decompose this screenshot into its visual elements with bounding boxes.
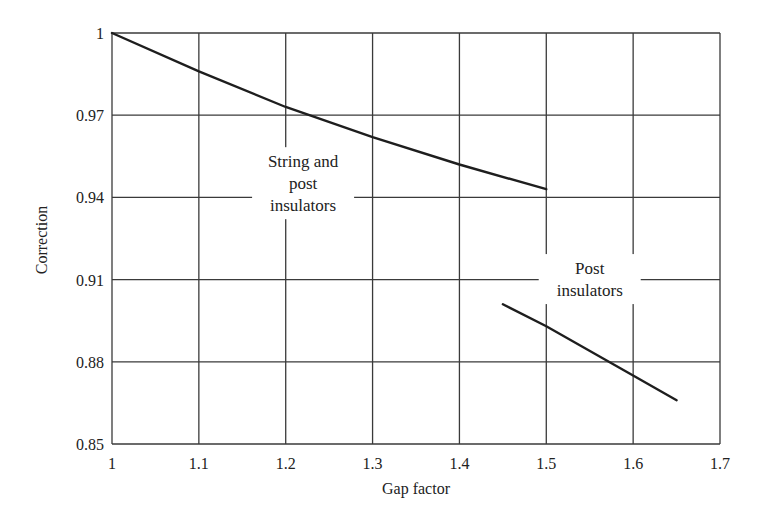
x-axis-tick-labels: 11.11.21.31.41.51.61.7: [108, 455, 730, 472]
x-tick-label: 1.5: [536, 455, 556, 472]
x-tick-label: 1.1: [189, 455, 209, 472]
y-axis-tick-labels: 0.850.880.910.940.971: [76, 25, 104, 453]
y-tick-label: 0.94: [76, 189, 104, 206]
annotation-label: insulators: [270, 196, 336, 215]
data-series: [112, 33, 677, 400]
y-tick-label: 0.91: [76, 272, 104, 289]
x-tick-label: 1: [108, 455, 116, 472]
x-tick-label: 1.2: [276, 455, 296, 472]
annotation-label: insulators: [557, 281, 623, 300]
x-tick-label: 1.7: [710, 455, 730, 472]
annotation-label: String and: [268, 152, 339, 171]
series-line: [503, 304, 677, 400]
grid: [112, 33, 720, 444]
annotation-label: post: [289, 174, 318, 193]
y-tick-label: 1: [96, 25, 104, 42]
annotation-label: Post: [575, 259, 605, 278]
x-tick-label: 1.6: [623, 455, 643, 472]
y-tick-label: 0.88: [76, 354, 104, 371]
x-tick-label: 1.3: [363, 455, 383, 472]
x-axis-title: Gap factor: [382, 480, 451, 498]
x-tick-label: 1.4: [449, 455, 469, 472]
y-tick-label: 0.85: [76, 436, 104, 453]
chart: 11.11.21.31.41.51.61.7 0.850.880.910.940…: [0, 0, 761, 524]
y-axis-title: Correction: [33, 206, 50, 274]
y-tick-label: 0.97: [76, 107, 104, 124]
